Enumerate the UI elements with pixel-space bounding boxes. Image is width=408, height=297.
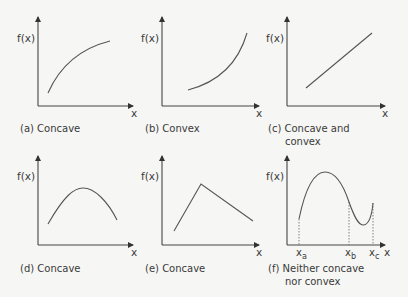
- panel-b-xlabel: x: [256, 107, 262, 120]
- panel-f-dotted-guides: [299, 202, 373, 245]
- panel-d-ylabel: f(x): [17, 170, 35, 183]
- panel-f-curve: [299, 172, 373, 225]
- panel-d-xlabel: x: [131, 246, 137, 259]
- panel-a-ylabel: f(x): [17, 32, 35, 45]
- panel-c-axes: [287, 17, 385, 106]
- panel-e-ylabel: f(x): [141, 170, 159, 183]
- panel-e-xlabel: x: [256, 246, 262, 259]
- panel-c-caption: (c) Concave and: [268, 122, 350, 135]
- panel-b-ylabel: f(x): [141, 32, 159, 45]
- panel-f-ylabel: f(x): [266, 170, 284, 183]
- panel-f-caption: (f) Neither concave: [268, 262, 364, 275]
- panel-c-caption-line2: convex: [285, 135, 321, 148]
- panel-f-xlabel: x: [384, 246, 390, 259]
- panel-e-caption: (e) Concave: [145, 262, 205, 275]
- panel-b-axes: [162, 17, 259, 106]
- panel-b-caption: (b) Convex: [145, 122, 200, 135]
- panel-d-caption: (d) Concave: [20, 262, 80, 275]
- panel-c-ylabel: f(x): [266, 32, 284, 45]
- panel-d-curve: [48, 188, 117, 224]
- panel-d-axes: [38, 156, 133, 245]
- panel-f-tick-xc: xc: [369, 246, 379, 263]
- panel-f-tick-xa: xa: [296, 246, 307, 263]
- panel-a-xlabel: x: [131, 107, 137, 120]
- panel-a-caption: (a) Concave: [20, 122, 80, 135]
- panel-a-curve: [48, 41, 110, 93]
- panel-e-line: [174, 184, 253, 231]
- panel-e-axes: [162, 156, 259, 245]
- panel-b-curve: [188, 33, 247, 90]
- panel-f-axes: [287, 156, 385, 245]
- panel-f-tick-xb: xb: [345, 246, 356, 263]
- panel-a-axes: [38, 17, 133, 106]
- panel-c-xlabel: x: [382, 107, 388, 120]
- panel-f-caption-line2: nor convex: [285, 275, 341, 288]
- panel-c-line: [306, 33, 372, 88]
